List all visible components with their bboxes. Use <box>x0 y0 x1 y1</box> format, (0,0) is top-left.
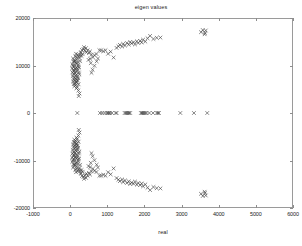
x-axis-tick-label: 5000 <box>250 211 262 217</box>
data-point-marker <box>143 40 147 44</box>
data-point-marker <box>77 66 81 70</box>
y-axis-tick <box>33 161 36 162</box>
data-point-marker <box>155 36 159 40</box>
data-point-marker <box>89 161 93 165</box>
data-point-marker <box>123 44 127 48</box>
data-point-marker <box>151 111 155 115</box>
x-axis-tick <box>70 18 71 21</box>
x-axis-tick <box>293 18 294 21</box>
matlab-figure-window: eigen values -10000100020003000400050006… <box>0 0 302 246</box>
data-point-marker <box>159 187 163 191</box>
y-axis-tick <box>33 208 36 209</box>
data-point-marker <box>155 186 159 190</box>
data-point-marker <box>89 61 93 65</box>
x-axis-tick <box>256 18 257 21</box>
data-point-group <box>70 28 209 198</box>
y-axis-tick-label: 20000 <box>16 15 31 21</box>
data-point-marker <box>106 170 110 174</box>
data-point-marker <box>106 52 110 56</box>
data-point-marker <box>90 151 94 155</box>
plot-axes <box>33 18 293 208</box>
y-axis-tick-label: 0 <box>27 110 30 116</box>
x-axis-tick-label: 2000 <box>139 211 151 217</box>
x-axis-tick-label: 6000 <box>287 211 299 217</box>
x-axis-tick <box>107 18 108 21</box>
data-point-marker <box>178 111 182 115</box>
data-point-marker <box>110 111 114 115</box>
data-point-marker <box>152 185 156 189</box>
data-point-marker <box>77 89 81 93</box>
data-point-marker <box>148 111 152 115</box>
y-axis-tick <box>290 18 293 19</box>
x-axis-tick-label: 3000 <box>176 211 188 217</box>
data-point-marker <box>152 37 156 41</box>
data-point-marker <box>192 111 196 115</box>
data-point-marker <box>143 183 147 187</box>
data-point-marker <box>130 181 134 185</box>
y-axis-tick-label: 10000 <box>16 63 31 69</box>
data-point-marker <box>77 157 81 161</box>
data-point-marker <box>95 170 99 174</box>
page-title: eigen values <box>0 4 302 10</box>
data-point-marker <box>148 34 152 38</box>
x-axis-tick <box>182 205 183 208</box>
y-axis-tick <box>33 113 36 114</box>
data-point-marker <box>93 158 97 162</box>
y-axis-tick <box>33 18 36 19</box>
y-axis-tick <box>290 113 293 114</box>
data-point-marker <box>77 128 81 132</box>
data-point-marker <box>93 169 97 173</box>
y-axis-tick <box>290 161 293 162</box>
data-point-marker <box>109 173 113 177</box>
y-axis-tick-label: -10000 <box>14 158 30 164</box>
y-axis-tick-label: -20000 <box>14 205 30 211</box>
x-axis-tick-label: 1000 <box>101 211 113 217</box>
y-axis-tick <box>33 66 36 67</box>
data-point-marker <box>91 154 95 158</box>
data-point-marker <box>77 134 81 138</box>
data-point-marker <box>85 172 89 176</box>
x-axis-tick <box>70 205 71 208</box>
x-axis-tick <box>219 205 220 208</box>
data-point-marker <box>112 56 116 60</box>
data-point-marker <box>85 51 89 55</box>
data-point-marker <box>90 71 94 75</box>
data-point-marker <box>93 64 97 68</box>
scatter-plot-canvas <box>34 19 292 207</box>
x-axis-tick <box>219 18 220 21</box>
data-point-marker <box>132 182 136 186</box>
x-axis-label: real <box>33 229 293 235</box>
data-point-marker <box>91 68 95 72</box>
data-point-marker <box>148 188 152 192</box>
x-axis-tick <box>144 18 145 21</box>
x-axis-tick <box>293 205 294 208</box>
data-point-marker <box>93 53 97 57</box>
data-point-marker <box>123 179 127 183</box>
data-point-marker <box>75 111 79 115</box>
data-point-marker <box>118 179 122 183</box>
data-point-marker <box>205 111 209 115</box>
data-point-marker <box>130 42 134 46</box>
data-point-marker <box>159 36 163 40</box>
data-point-marker <box>77 94 81 98</box>
data-point-marker <box>95 52 99 56</box>
data-point-marker <box>112 167 116 171</box>
y-axis-tick <box>290 208 293 209</box>
x-axis-tick-label: 4000 <box>213 211 225 217</box>
data-point-marker <box>132 40 136 44</box>
y-axis-tick <box>290 66 293 67</box>
x-axis-tick <box>182 18 183 21</box>
x-axis-tick <box>144 205 145 208</box>
x-axis-tick <box>256 205 257 208</box>
x-axis-tick <box>107 205 108 208</box>
data-point-marker <box>118 43 122 47</box>
data-point-marker <box>109 50 113 54</box>
data-point-marker <box>78 131 82 135</box>
x-axis-tick-label: -1000 <box>26 211 39 217</box>
x-axis-tick-label: 0 <box>69 211 72 217</box>
data-point-marker <box>78 92 82 96</box>
